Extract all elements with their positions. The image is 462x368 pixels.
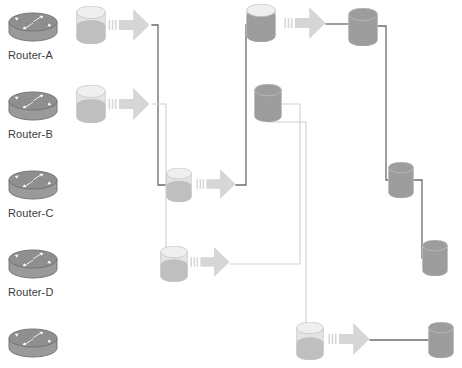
diagram-canvas: Router-ARouter-BRouter-CRouter-D (0, 0, 462, 368)
node-layer: Router-ARouter-BRouter-CRouter-D (0, 0, 462, 368)
router-label: Router-D (8, 286, 53, 298)
flow-arrow-mid-up (196, 168, 236, 200)
router-label: Router-B (8, 128, 53, 140)
store-lower-right (422, 240, 448, 276)
buffer-a (76, 6, 106, 44)
store-mid-right (388, 162, 414, 198)
store-center (254, 84, 282, 122)
buffer-b (76, 85, 106, 123)
flow-arrow-mid-low (190, 246, 230, 278)
router-label: Router-C (8, 207, 53, 219)
buffer-bottom (296, 322, 324, 360)
flow-arrow-bottom (328, 322, 370, 356)
router-icon (6, 85, 60, 125)
buffer-top-center (246, 4, 276, 42)
flow-arrow-b (108, 87, 150, 121)
flow-arrow-top (284, 6, 326, 40)
router-icon (6, 243, 60, 283)
router-label: Router-A (8, 49, 53, 61)
store-top-right (348, 8, 378, 46)
router-icon (6, 6, 60, 46)
store-bottom-right (428, 322, 454, 358)
buffer-mid-lower (160, 246, 188, 282)
router-icon (6, 322, 60, 362)
router-icon (6, 164, 60, 204)
flow-arrow-a (108, 8, 150, 42)
buffer-mid-upper (166, 168, 192, 202)
